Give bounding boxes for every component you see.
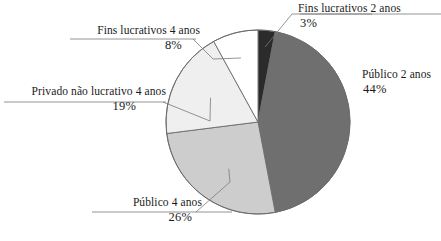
pie-label-name: Público 2 anos: [362, 68, 431, 82]
pie-label-publico-2-anos: Público 2 anos 44%: [362, 68, 431, 96]
pie-label-percent: 3%: [298, 16, 401, 31]
pie-slices-group: [166, 30, 350, 214]
pie-label-name: Público 4 anos: [90, 196, 202, 210]
pie-label-fins-lucrativos-4-anos: Fins lucrativos 4 anos 8%: [66, 24, 200, 52]
pie-slice: [258, 32, 350, 213]
pie-label-publico-4-anos: Público 4 anos 26%: [90, 196, 202, 224]
pie-label-privado-nao-lucrativo-4-anos: Privado não lucrativo 4 anos 19%: [6, 85, 166, 113]
pie-chart-figure: Fins lucrativos 2 anos 3% Público 2 anos…: [0, 0, 441, 241]
pie-label-percent: 19%: [6, 99, 166, 114]
pie-label-name: Fins lucrativos 4 anos: [66, 24, 200, 38]
pie-label-percent: 8%: [66, 38, 200, 53]
pie-label-percent: 26%: [90, 210, 202, 225]
pie-label-name: Privado não lucrativo 4 anos: [6, 85, 166, 99]
pie-label-name: Fins lucrativos 2 anos: [298, 2, 401, 16]
pie-label-percent: 44%: [362, 82, 431, 97]
pie-label-fins-lucrativos-2-anos: Fins lucrativos 2 anos 3%: [298, 2, 401, 30]
